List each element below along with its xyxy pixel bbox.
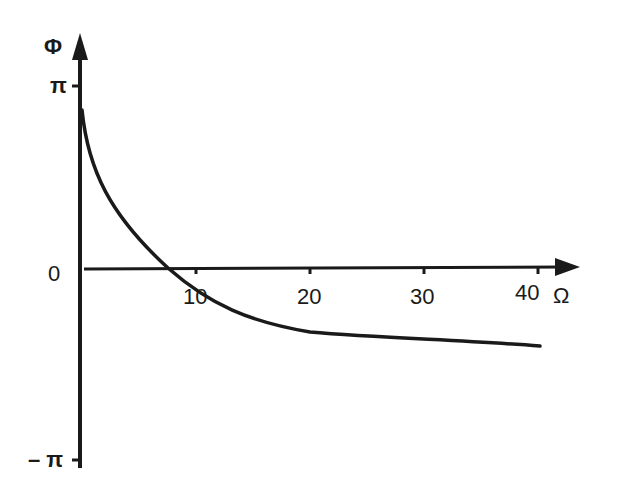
x-tick-label-30: 30 bbox=[410, 284, 434, 309]
x-axis bbox=[84, 267, 566, 269]
x-axis-label: Ω bbox=[553, 283, 569, 308]
y-axis-arrowhead bbox=[72, 33, 88, 60]
x-tick-label-10: 10 bbox=[183, 284, 207, 309]
phase-curve bbox=[82, 110, 540, 346]
x-axis-arrowhead bbox=[555, 258, 580, 276]
phase-chart: Φ π 0 – π 10 20 30 40 Ω bbox=[0, 0, 618, 488]
y-tick-label-pi: π bbox=[50, 73, 67, 98]
x-tick-label-20: 20 bbox=[297, 284, 321, 309]
y-axis-label: Φ bbox=[44, 34, 62, 59]
y-tick-label-zero: 0 bbox=[48, 261, 60, 286]
y-tick-label-neg-pi: – π bbox=[28, 447, 63, 472]
x-tick-label-40: 40 bbox=[515, 280, 539, 305]
